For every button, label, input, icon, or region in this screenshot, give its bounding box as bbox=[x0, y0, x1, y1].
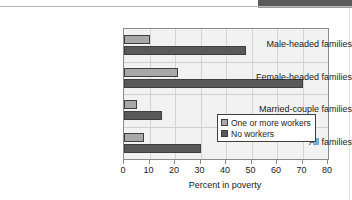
bar bbox=[124, 46, 246, 55]
x-axis-tick bbox=[251, 159, 252, 164]
x-axis-tick bbox=[302, 159, 303, 164]
category-separator bbox=[124, 62, 328, 63]
x-axis-tick bbox=[149, 159, 150, 164]
x-axis-tick-label: 80 bbox=[315, 165, 339, 175]
x-axis-tick-label: 30 bbox=[188, 165, 212, 175]
x-axis-tick bbox=[327, 159, 328, 164]
scan-artifact-rule bbox=[0, 6, 352, 7]
legend-swatch-icon bbox=[221, 119, 228, 126]
bar bbox=[124, 144, 201, 153]
bar bbox=[124, 35, 150, 44]
x-axis-tick bbox=[200, 159, 201, 164]
x-axis-tick-label: 10 bbox=[137, 165, 161, 175]
x-axis-tick-label: 0 bbox=[111, 165, 135, 175]
legend-label: One or more workers bbox=[231, 118, 311, 128]
x-axis-tick-label: 50 bbox=[239, 165, 263, 175]
x-axis-tick bbox=[276, 159, 277, 164]
x-axis-tick bbox=[123, 159, 124, 164]
legend-item-no-workers: No workers bbox=[221, 128, 311, 139]
category-label: Female-headed families bbox=[234, 72, 352, 82]
bar-chart-figure: Male-headed familiesFemale-headed famili… bbox=[0, 10, 352, 200]
bar bbox=[124, 133, 144, 142]
category-separator bbox=[124, 94, 328, 95]
bar bbox=[124, 111, 162, 120]
x-axis-tick-label: 60 bbox=[264, 165, 288, 175]
legend-swatch-icon bbox=[221, 130, 228, 137]
x-axis-tick-label: 70 bbox=[290, 165, 314, 175]
bar bbox=[124, 100, 137, 109]
category-label: Married-couple families bbox=[234, 104, 352, 114]
x-axis-tick-label: 40 bbox=[213, 165, 237, 175]
legend-item-one-or-more-workers: One or more workers bbox=[221, 117, 311, 128]
chart-legend: One or more workers No workers bbox=[217, 114, 316, 142]
x-axis-tick bbox=[174, 159, 175, 164]
x-axis-tick bbox=[225, 159, 226, 164]
bar bbox=[124, 68, 178, 77]
x-axis-tick-label: 20 bbox=[162, 165, 186, 175]
category-label: Male-headed families bbox=[234, 39, 352, 49]
legend-label: No workers bbox=[231, 129, 274, 139]
x-axis-title: Percent in poverty bbox=[123, 180, 327, 190]
